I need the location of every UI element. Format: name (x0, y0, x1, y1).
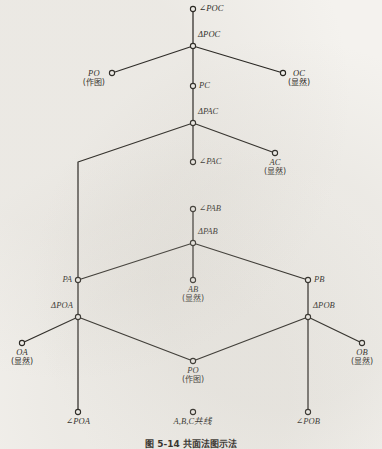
node-label-ab: AB(显然) (182, 285, 204, 303)
node-label-text-pa: PA (63, 274, 73, 284)
node-circle-collinear[interactable] (190, 409, 195, 414)
node-label-po-top: PO(作图) (83, 69, 105, 87)
node-label-text-ab: AB (188, 284, 199, 294)
node-circle-oc[interactable] (280, 70, 285, 75)
node-label-ac: AC(显然) (264, 158, 286, 176)
node-label-text-angle-pob: ∠POB (296, 416, 320, 426)
node-sublabel-oa: (显然) (11, 358, 33, 367)
node-circle-angle-pab[interactable] (190, 206, 195, 211)
node-circle-ob[interactable] (359, 340, 364, 345)
node-label-tri-poa: ΔPOA (51, 301, 73, 311)
node-label-text-oa: OA (16, 347, 28, 357)
node-circle-po-bottom[interactable] (190, 358, 195, 363)
edge-e-tri-pab-pb (193, 243, 308, 280)
node-label-text-angle-pac: ∠PAC (199, 156, 221, 166)
node-circle-pa[interactable] (75, 277, 80, 282)
node-label-tri-pob: ΔPOB (313, 301, 335, 311)
node-label-text-po-top: PO (88, 68, 100, 78)
node-label-po-bottom: PO(作图) (182, 366, 204, 384)
edge-e-tri-poc-po (112, 46, 193, 73)
node-label-angle-poa: ∠POA (66, 417, 90, 427)
node-label-ob: OB(显然) (351, 348, 373, 366)
edge-e-tri-poa-po (78, 317, 193, 361)
node-circle-tri-pob[interactable] (305, 314, 310, 319)
node-label-tri-poc: ΔPOC (198, 30, 220, 40)
node-label-angle-pob: ∠POB (296, 417, 320, 427)
node-circle-pc[interactable] (190, 83, 195, 88)
node-label-text-angle-poc: ∠POC (199, 3, 224, 13)
node-circle-angle-pac[interactable] (190, 159, 195, 164)
node-circle-tri-poa[interactable] (75, 314, 80, 319)
node-label-text-oc: OC (293, 68, 305, 78)
node-circle-pb[interactable] (305, 277, 310, 282)
node-circle-ab[interactable] (190, 277, 195, 282)
node-label-text-pc: PC (199, 80, 210, 90)
node-label-text-tri-pab: ΔPAB (198, 226, 218, 236)
edge-e-tri-pob-ob (308, 317, 362, 343)
node-label-pc: PC (199, 81, 210, 91)
node-circle-tri-pac[interactable] (190, 120, 195, 125)
node-label-text-po-bottom: PO (187, 365, 199, 375)
node-label-text-tri-poc: ΔPOC (198, 29, 220, 39)
node-sublabel-ac: (显然) (264, 168, 286, 177)
edge-e-tri-pab-pa (78, 243, 193, 280)
node-label-text-pb: PB (314, 274, 325, 284)
node-circle-po-top[interactable] (109, 70, 114, 75)
edge-e-tri-pac-ac (193, 123, 275, 153)
node-circle-angle-poc[interactable] (190, 6, 195, 11)
node-label-oa: OA(显然) (11, 348, 33, 366)
node-circle-ac[interactable] (272, 150, 277, 155)
node-circle-tri-pab[interactable] (190, 240, 195, 245)
node-label-pb: PB (314, 275, 325, 285)
node-label-collinear: A,B,C共线 (173, 417, 212, 427)
node-label-oc: OC(显然) (288, 69, 310, 87)
node-sublabel-ab: (显然) (182, 295, 204, 304)
node-label-angle-poc: ∠POC (199, 4, 224, 14)
node-label-tri-pac: ΔPAC (198, 107, 218, 117)
node-label-angle-pac: ∠PAC (199, 157, 221, 167)
node-label-text-angle-pab: ∠PAB (199, 203, 221, 213)
edge-e-tri-poa-oa (22, 317, 78, 343)
node-circle-tri-poc[interactable] (190, 43, 195, 48)
node-label-text-tri-poa: ΔPOA (51, 300, 73, 310)
node-label-text-tri-pac: ΔPAC (198, 106, 218, 116)
edge-e-tri-poc-oc (193, 46, 283, 73)
node-label-text-ac: AC (269, 157, 280, 167)
node-label-text-angle-poa: ∠POA (66, 416, 90, 426)
node-circle-angle-pob[interactable] (305, 409, 310, 414)
node-label-angle-pab: ∠PAB (199, 204, 221, 214)
edge-e-tri-pob-po (193, 317, 308, 361)
node-label-text-tri-pob: ΔPOB (313, 300, 335, 310)
edge-e-tri-pac-pa (78, 123, 193, 280)
proof-tree-diagram: ∠POCΔPOCPO(作图)OC(显然)PCΔPAC∠PACAC(显然)∠PAB… (0, 0, 382, 449)
node-sublabel-oc: (显然) (288, 79, 310, 88)
node-circle-oa[interactable] (19, 340, 24, 345)
node-sublabel-po-top: (作图) (83, 79, 105, 88)
node-sublabel-po-bottom: (作图) (182, 376, 204, 385)
figure-caption: 图 5-14 共面法图示法 (145, 437, 237, 449)
node-label-tri-pab: ΔPAB (198, 227, 218, 237)
node-sublabel-ob: (显然) (351, 358, 373, 367)
node-label-pa: PA (63, 275, 73, 285)
node-label-text-ob: OB (356, 347, 368, 357)
node-label-text-collinear: A,B,C共线 (173, 416, 212, 426)
node-circle-angle-poa[interactable] (75, 409, 80, 414)
